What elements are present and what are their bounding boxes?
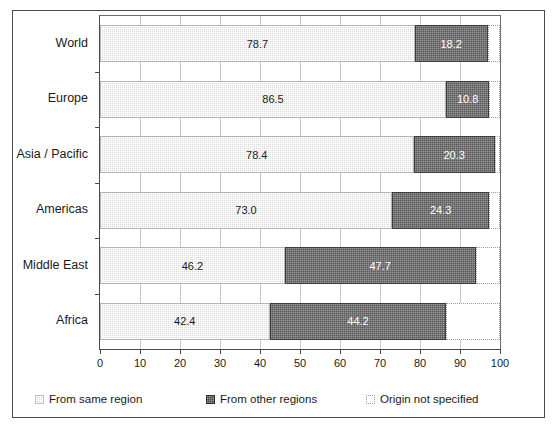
category-label-world: World	[56, 36, 88, 50]
x-gridline	[220, 16, 221, 349]
chart-frame: 010203040506070809010078.718.286.510.878…	[12, 10, 545, 418]
bar-segment-not-specified[interactable]	[446, 303, 500, 340]
bar-segment-not-specified[interactable]	[488, 25, 500, 62]
bar-row: 46.247.7	[100, 247, 500, 284]
x-axis-tick	[220, 349, 221, 354]
bar-segment-other-regions[interactable]: 10.8	[446, 81, 489, 118]
legend-item-1[interactable]: From other regions	[206, 393, 317, 405]
bar-value-label: 44.2	[347, 315, 368, 327]
bar-value-label: 78.7	[247, 38, 268, 50]
bar-segment-same-region[interactable]: 78.7	[100, 25, 415, 62]
x-axis-tick-label: 100	[491, 357, 509, 369]
x-axis-tick-label: 90	[454, 357, 466, 369]
bar-segment-other-regions[interactable]: 24.3	[392, 192, 489, 229]
y-axis-tick	[95, 238, 100, 239]
x-axis-tick-label: 10	[134, 357, 146, 369]
legend-item-2[interactable]: Origin not specified	[366, 393, 478, 405]
y-axis-tick	[95, 183, 100, 184]
bar-segment-same-region[interactable]: 86.5	[100, 81, 446, 118]
bar-segment-not-specified[interactable]	[476, 247, 500, 284]
x-axis-tick	[500, 349, 501, 354]
x-axis-tick-label: 20	[174, 357, 186, 369]
x-axis-tick-label: 80	[414, 357, 426, 369]
bar-segment-same-region[interactable]: 42.4	[100, 303, 270, 340]
x-axis-tick-label: 0	[97, 357, 103, 369]
bar-value-label: 86.5	[262, 93, 283, 105]
bar-value-label: 46.2	[182, 260, 203, 272]
bar-value-label: 73.0	[235, 204, 256, 216]
chart-legend: From same regionFrom other regionsOrigin…	[13, 389, 544, 409]
bar-row: 78.420.3	[100, 136, 500, 173]
category-label-africa: Africa	[56, 313, 88, 327]
bar-value-label: 20.3	[443, 149, 464, 161]
legend-label: From other regions	[220, 393, 317, 405]
x-gridline	[460, 16, 461, 349]
category-label-middle-east: Middle East	[23, 258, 88, 272]
bar-segment-same-region[interactable]: 73.0	[100, 192, 392, 229]
x-axis-tick-label: 40	[254, 357, 266, 369]
category-label-europe: Europe	[48, 91, 88, 105]
x-axis-tick	[300, 349, 301, 354]
bar-segment-same-region[interactable]: 46.2	[100, 247, 285, 284]
x-axis-tick	[100, 349, 101, 354]
legend-label: From same region	[49, 393, 142, 405]
bar-segment-not-specified[interactable]	[495, 136, 500, 173]
plot-area: 010203040506070809010078.718.286.510.878…	[99, 15, 501, 350]
category-label-americas: Americas	[36, 202, 88, 216]
y-axis-tick	[95, 127, 100, 128]
bar-value-label: 47.7	[369, 260, 390, 272]
bar-row: 73.024.3	[100, 192, 500, 229]
bar-row: 42.444.2	[100, 303, 500, 340]
x-axis-tick-label: 60	[334, 357, 346, 369]
x-axis-tick	[340, 349, 341, 354]
x-gridline	[140, 16, 141, 349]
bar-segment-other-regions[interactable]: 47.7	[285, 247, 476, 284]
x-axis-tick	[260, 349, 261, 354]
y-axis-tick	[95, 294, 100, 295]
category-label-asia-pacific: Asia / Pacific	[16, 147, 88, 161]
x-axis-tick-label: 50	[294, 357, 306, 369]
bar-segment-other-regions[interactable]: 44.2	[270, 303, 447, 340]
legend-item-0[interactable]: From same region	[35, 393, 142, 405]
bar-row: 86.510.8	[100, 81, 500, 118]
swatch-other-regions-icon	[206, 395, 215, 404]
x-axis-tick-label: 30	[214, 357, 226, 369]
x-gridline	[340, 16, 341, 349]
bar-row: 78.718.2	[100, 25, 500, 62]
x-axis-tick	[460, 349, 461, 354]
legend-label: Origin not specified	[380, 393, 478, 405]
x-gridline	[420, 16, 421, 349]
bar-segment-same-region[interactable]: 78.4	[100, 136, 414, 173]
x-gridline	[380, 16, 381, 349]
x-axis-tick-label: 70	[374, 357, 386, 369]
bar-value-label: 18.2	[440, 38, 461, 50]
swatch-not-specified-icon	[366, 395, 375, 404]
bar-value-label: 10.8	[457, 93, 478, 105]
bar-segment-not-specified[interactable]	[489, 81, 500, 118]
bar-value-label: 42.4	[174, 315, 195, 327]
x-axis-tick	[140, 349, 141, 354]
swatch-same-region-icon	[35, 395, 44, 404]
x-gridline	[260, 16, 261, 349]
bar-segment-not-specified[interactable]	[489, 192, 500, 229]
x-gridline	[300, 16, 301, 349]
bar-value-label: 78.4	[246, 149, 267, 161]
bar-value-label: 24.3	[430, 204, 451, 216]
x-axis-tick	[180, 349, 181, 354]
x-axis-tick	[420, 349, 421, 354]
y-axis-tick	[95, 72, 100, 73]
x-axis-tick	[380, 349, 381, 354]
bar-segment-other-regions[interactable]: 18.2	[415, 25, 488, 62]
x-gridline	[180, 16, 181, 349]
bar-segment-other-regions[interactable]: 20.3	[414, 136, 495, 173]
